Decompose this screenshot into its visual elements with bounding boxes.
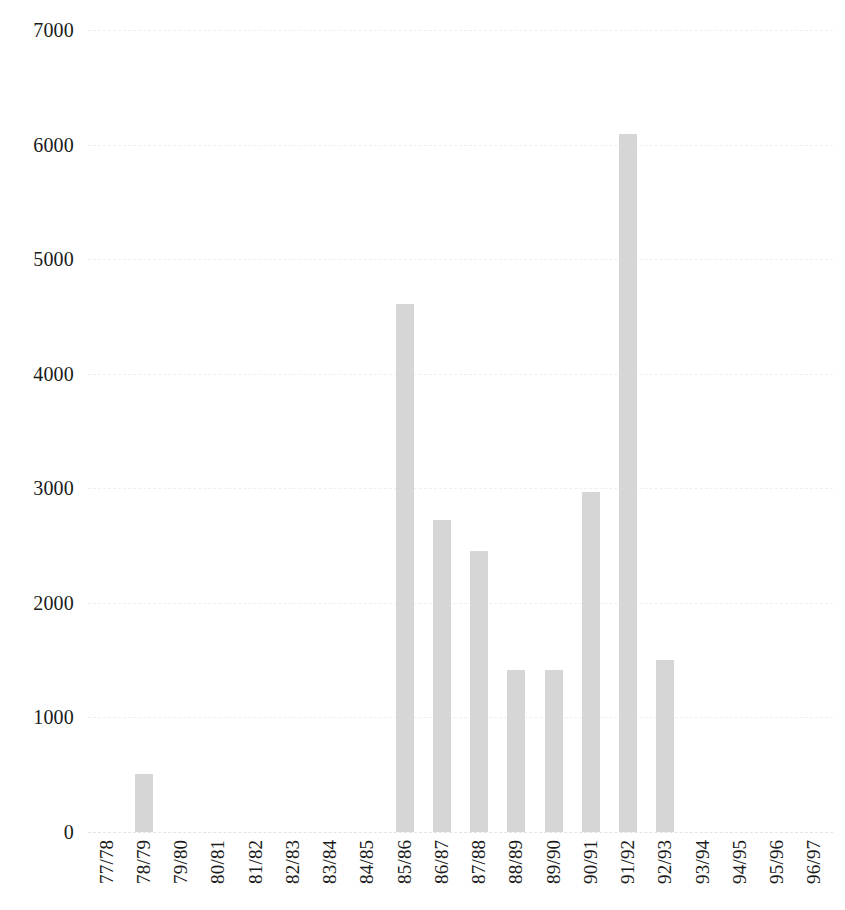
- x-axis-tick-label: 91/92: [617, 840, 639, 884]
- y-axis-tick-label: 7000: [33, 19, 74, 42]
- x-axis-tick-label: 89/90: [543, 840, 565, 884]
- y-axis-tick-label: 5000: [33, 248, 74, 271]
- x-axis-tick-label: 86/87: [431, 840, 453, 884]
- gridline: [88, 488, 833, 489]
- gridline: [88, 30, 833, 31]
- bar: [470, 551, 488, 832]
- y-axis-tick-label: 2000: [33, 591, 74, 614]
- gridline: [88, 717, 833, 718]
- x-axis-tick-label: 82/83: [282, 840, 304, 884]
- x-axis-tick-label: 85/86: [394, 840, 416, 884]
- gridline: [88, 259, 833, 260]
- gridline: [88, 832, 833, 833]
- y-axis-tick-label: 6000: [33, 133, 74, 156]
- x-axis-tick-label: 87/88: [468, 840, 490, 884]
- gridline: [88, 145, 833, 146]
- y-axis-tick-label: 3000: [33, 477, 74, 500]
- bar: [582, 492, 600, 832]
- bar: [545, 670, 563, 832]
- x-axis-tick-label: 95/96: [766, 840, 788, 884]
- plot-area: 01000200030004000500060007000: [88, 30, 833, 832]
- bar: [619, 134, 637, 832]
- x-axis-tick-label: 90/91: [580, 840, 602, 884]
- x-axis-tick-label: 78/79: [133, 840, 155, 884]
- y-axis-tick-label: 1000: [33, 706, 74, 729]
- bar: [656, 660, 674, 832]
- bar: [433, 520, 451, 832]
- x-axis-tick-label: 93/94: [692, 840, 714, 884]
- bar: [507, 670, 525, 832]
- x-axis-tick-label: 83/84: [319, 840, 341, 884]
- x-axis-tick-label: 92/93: [654, 840, 676, 884]
- bar: [396, 304, 414, 832]
- y-axis-tick-label: 0: [64, 821, 74, 844]
- bar: [135, 774, 153, 832]
- x-axis-tick-label: 80/81: [207, 840, 229, 884]
- x-axis-tick-label: 96/97: [803, 840, 825, 884]
- x-axis-tick-label: 77/78: [96, 840, 118, 884]
- bar-chart: 01000200030004000500060007000 77/7878/79…: [0, 0, 845, 910]
- gridline: [88, 603, 833, 604]
- y-axis-tick-label: 4000: [33, 362, 74, 385]
- x-axis-tick-label: 94/95: [729, 840, 751, 884]
- x-axis-tick-labels: 77/7878/7979/8080/8181/8282/8383/8484/85…: [88, 836, 833, 910]
- x-axis-tick-label: 84/85: [356, 840, 378, 884]
- x-axis-tick-label: 88/89: [505, 840, 527, 884]
- x-axis-tick-label: 79/80: [170, 840, 192, 884]
- x-axis-tick-label: 81/82: [245, 840, 267, 884]
- gridline: [88, 374, 833, 375]
